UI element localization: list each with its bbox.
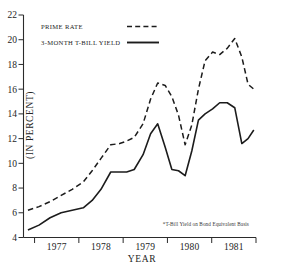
x-axis-title: YEAR <box>128 254 156 264</box>
y-tick-label-18: 18 <box>8 60 18 70</box>
x-tick-group: 19771978197919801981 <box>35 238 256 253</box>
chart-figure: 46810121416182022 19771978197919801981 (… <box>0 0 285 268</box>
y-tick-label-12: 12 <box>8 134 18 144</box>
y-tick-group: 46810121416182022 <box>8 10 24 243</box>
legend-label-prime-rate: PRIME RATE <box>41 23 83 30</box>
y-tick-label-14: 14 <box>8 109 18 119</box>
y-tick-label-20: 20 <box>8 35 18 45</box>
x-tick-label-1979: 1979 <box>135 242 155 252</box>
x-tick-label-1978: 1978 <box>91 242 111 252</box>
y-axis: 46810121416182022 <box>8 10 24 243</box>
y-axis-title: (IN PERCENT) <box>25 91 36 159</box>
x-tick-label-1981: 1981 <box>224 242 244 252</box>
y-tick-label-8: 8 <box>12 183 17 193</box>
x-axis: 19771978197919801981 <box>24 238 257 253</box>
legend-label-tbill-yield: 3-MONTH T-BILL YIELD <box>41 39 120 46</box>
series-group <box>28 38 254 230</box>
series-line-prime-rate <box>28 38 254 210</box>
x-tick-label-1977: 1977 <box>47 242 67 252</box>
footnote: *T-Bill Yield on Bond Equivalent Basis <box>163 221 249 227</box>
y-tick-label-10: 10 <box>8 159 18 169</box>
y-tick-label-16: 16 <box>8 85 18 95</box>
y-tick-label-6: 6 <box>12 208 17 218</box>
series-line-3-month-t-bill-yield <box>28 103 254 230</box>
y-tick-label-4: 4 <box>12 233 17 243</box>
legend: PRIME RATE 3-MONTH T-BILL YIELD <box>41 23 159 46</box>
y-tick-label-22: 22 <box>8 10 18 20</box>
interest-rates-line-chart: 46810121416182022 19771978197919801981 (… <box>0 0 285 268</box>
x-tick-label-1980: 1980 <box>180 242 200 252</box>
